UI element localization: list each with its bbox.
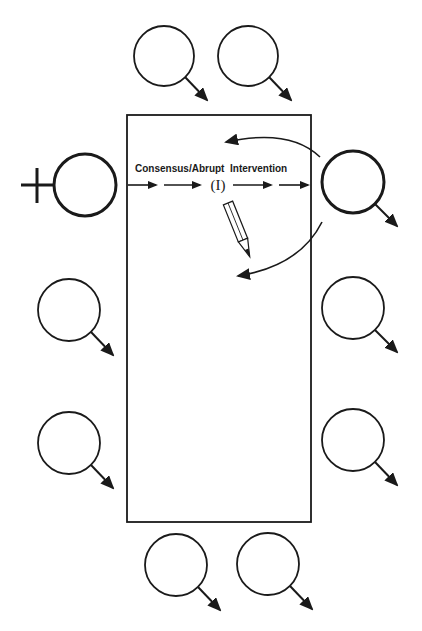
male-symbol-icon [375,462,397,485]
curved-arrow-lower [238,222,322,276]
participant-left-3 [38,412,113,488]
participant-left-2 [38,279,113,355]
participant-right-3 [322,409,397,485]
male-symbol-icon [375,330,397,352]
male-symbol-icon [91,332,113,355]
participant-right-male [322,151,397,226]
pencil-icon [223,201,254,259]
male-symbol-icon [198,587,220,610]
participant-top-2 [218,26,291,100]
participant-bottom-2 [237,533,312,609]
curved-arrow-upper [226,137,320,157]
participant-left-female [21,154,116,216]
female-symbol-icon [21,168,54,203]
intervention-marker: (I) [211,177,226,194]
male-symbol-icon [185,77,207,100]
participant-top-1 [134,26,207,100]
male-symbol-icon [269,77,291,100]
male-symbol-icon [91,465,113,488]
male-symbol-icon [375,204,397,226]
meeting-diagram: Consensus/Abrupt Intervention (I) [0,0,422,631]
participant-right-2 [322,277,397,352]
process-label: Consensus/Abrupt Intervention [135,163,287,174]
participant-bottom-1 [145,534,220,610]
male-symbol-icon [290,586,312,609]
